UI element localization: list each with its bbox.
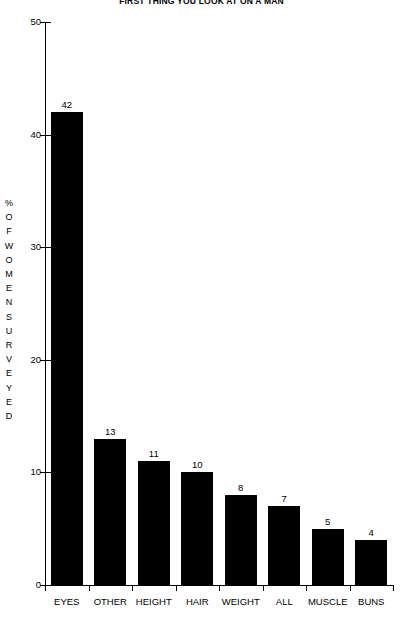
x-tick-mark [219,585,220,591]
y-axis-title-letter: E [2,281,16,295]
y-axis-title-letter: E [2,395,16,409]
category-label: BUNS [341,596,401,608]
y-axis-title-letter: O [2,210,16,224]
y-tick-group: 50 [45,22,46,23]
y-axis-title-letter: S [2,310,16,324]
x-tick-mark [132,585,133,591]
y-axis-title-letter: O [2,253,16,267]
y-tick-mark [40,472,51,473]
y-tick-mark [40,135,51,136]
x-tick-mark [263,585,264,591]
y-tick-group: 10 [45,472,46,473]
y-axis-title-letter: U [2,324,16,338]
x-tick-mark [45,585,46,591]
y-tick-mark [40,22,51,23]
y-tick-label: 10 [11,466,41,477]
x-tick-mark [350,585,351,591]
y-axis-title: %OFWOMENSURVEYED [2,196,16,423]
y-tick-label: 30 [11,241,41,252]
plot-area: 01020304050 421311108754 EYESOTHERHEIGHT… [45,22,393,585]
x-tick-mark [306,585,307,591]
y-axis-title-letter: D [2,409,16,423]
x-tick-mark [176,585,177,591]
y-tick-label: 40 [11,129,41,140]
y-tick-label: 50 [11,16,41,27]
x-tick-mark [89,585,90,591]
y-tick-mark [40,247,51,248]
bar [268,506,300,585]
bar-value-label: 7 [264,493,304,504]
y-axis-title-letter: % [2,196,16,210]
y-axis-title-letter: N [2,295,16,309]
y-axis-title-letter: Y [2,381,16,395]
y-tick-mark [40,360,51,361]
x-tick-mark [393,585,394,591]
y-axis-title-letter: E [2,366,16,380]
bar-value-label: 10 [177,459,217,470]
bar-value-label: 5 [308,516,348,527]
y-tick-label: 0 [11,579,41,590]
bar-value-label: 42 [47,99,87,110]
y-tick-group: 30 [45,247,46,248]
bar-value-label: 4 [351,527,391,538]
y-tick-label: 20 [11,354,41,365]
bar-value-label: 11 [134,448,174,459]
bar [225,495,257,585]
y-axis-title-letter: M [2,267,16,281]
bar-value-label: 8 [221,482,261,493]
bar [355,540,387,585]
y-axis-title-letter: R [2,338,16,352]
bar [312,529,344,585]
y-tick-group: 20 [45,360,46,361]
bar [51,112,83,585]
bar-chart: FIRST THING YOU LOOK AT ON A MAN %OFWOME… [0,0,403,618]
y-tick-group: 40 [45,135,46,136]
chart-title: FIRST THING YOU LOOK AT ON A MAN [0,0,403,6]
bar [138,461,170,585]
bar [181,472,213,585]
y-axis-title-letter: F [2,224,16,238]
bar-value-label: 13 [90,426,130,437]
bar [94,439,126,585]
